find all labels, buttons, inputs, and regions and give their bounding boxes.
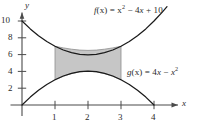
x-tick-label-3: 3 xyxy=(118,112,123,122)
y-axis-label: y xyxy=(25,0,29,10)
x-tick-label-2: 2 xyxy=(85,112,90,122)
y-tick-label-2: 2 xyxy=(8,83,13,93)
function-label-g-exponent: 2 xyxy=(175,65,178,72)
function-label-g: g(x) = 4x − x2 xyxy=(127,67,178,77)
x-tick-label-4: 4 xyxy=(151,112,156,122)
function-label-g-arg: (x) = 4 xyxy=(132,67,157,77)
graph-figure: y x 10 8 6 4 2 1 2 3 4 f(x) = x2 − 4x + … xyxy=(0,0,197,128)
x-axis-arrow-icon xyxy=(172,103,179,108)
function-label-f-arg: (x) = x xyxy=(97,5,122,15)
plot-canvas xyxy=(0,0,197,128)
function-label-g-mid: − xyxy=(161,67,171,77)
function-label-f: f(x) = x2 − 4x + 10 xyxy=(94,5,163,15)
y-tick-label-4: 4 xyxy=(8,66,13,76)
y-axis-arrow-icon xyxy=(20,13,25,19)
x-tick-label-1: 1 xyxy=(52,112,57,122)
y-tick-label-10: 10 xyxy=(1,15,10,25)
x-axis-label: x xyxy=(182,98,186,108)
y-tick-label-8: 8 xyxy=(8,32,13,42)
function-label-f-tail: + 10 xyxy=(144,5,163,15)
function-label-f-mid: − 4 xyxy=(125,5,139,15)
y-tick-label-6: 6 xyxy=(8,49,13,59)
